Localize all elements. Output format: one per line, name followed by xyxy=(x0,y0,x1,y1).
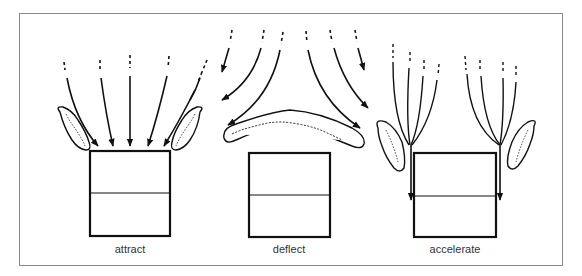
label-deflect: deflect xyxy=(229,243,349,255)
house-attract xyxy=(90,151,170,236)
panel-accelerate xyxy=(377,44,535,237)
panel-deflect xyxy=(190,30,368,237)
shrub-left-accelerate-icon xyxy=(377,121,405,171)
airflow-arrows-accelerate-right xyxy=(465,56,516,200)
shrub-right-icon xyxy=(172,107,202,150)
airflow-arrows-accelerate-left xyxy=(393,44,439,200)
shrub-right-accelerate-icon xyxy=(508,121,536,169)
house-accelerate xyxy=(414,153,496,237)
panel-attract xyxy=(58,55,202,236)
house-deflect xyxy=(249,153,330,237)
label-attract: attract xyxy=(70,243,190,255)
label-accelerate: accelerate xyxy=(395,243,515,255)
diagram-canvas xyxy=(0,0,582,276)
